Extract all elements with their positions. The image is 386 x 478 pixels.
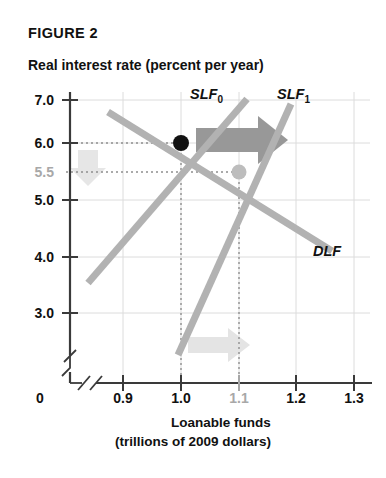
x-axis-caption-line1: Loanable funds [0, 413, 386, 432]
equilibrium-point-initial [173, 135, 189, 151]
x-tick-label-0.9: 0.9 [103, 390, 143, 406]
plot-area [0, 0, 386, 478]
x-axis-caption-line2: (trillions of 2009 dollars) [0, 432, 386, 451]
curve-label-dlf: DLF [313, 243, 341, 259]
curve-label-slf1-sub: 1 [304, 94, 310, 105]
x-tick-label-1.1: 1.1 [219, 390, 259, 406]
y-tick-label-3.0: 3.0 [12, 305, 54, 321]
y-tick-label-5.5: 5.5 [12, 164, 54, 180]
figure-container: FIGURE 2 Real interest rate (percent per… [0, 0, 386, 478]
curve-label-slf0-text: SLF [190, 86, 217, 102]
x-tick-label-1.0: 1.0 [161, 390, 201, 406]
y-tick-label-6.0: 6.0 [12, 135, 54, 151]
x-axis-caption: Loanable funds (trillions of 2009 dollar… [0, 413, 386, 451]
x-tick-label-1.2: 1.2 [276, 390, 316, 406]
curve-label-slf1: SLF1 [277, 86, 310, 105]
y-tick-label-7.0: 7.0 [12, 92, 54, 108]
x-tick-label-origin: 0 [20, 390, 60, 406]
y-tick-label-5.0: 5.0 [12, 192, 54, 208]
y-tick-label-4.0: 4.0 [12, 249, 54, 265]
curve-label-slf1-text: SLF [277, 86, 304, 102]
curve-label-slf0-sub: 0 [217, 94, 223, 105]
equilibrium-point-new [232, 165, 247, 180]
x-tick-label-1.3: 1.3 [334, 390, 374, 406]
rate-fall-arrow [70, 150, 106, 186]
curve-label-slf0: SLF0 [190, 86, 223, 105]
quantity-increase-arrow [188, 328, 250, 362]
